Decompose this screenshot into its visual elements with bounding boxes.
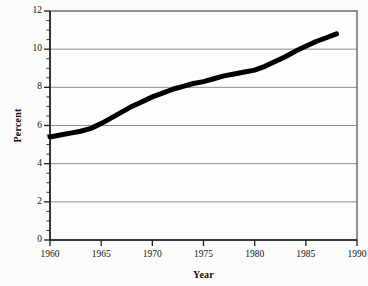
y-tick-label: 4 xyxy=(20,158,42,168)
y-tick-label: 0 xyxy=(20,234,42,244)
x-tick-label: 1975 xyxy=(184,249,224,259)
y-tick-label: 8 xyxy=(20,81,42,91)
x-tick-label: 1985 xyxy=(286,249,326,259)
y-axis-major-ticks xyxy=(44,11,50,240)
x-axis-label-wrap: Year xyxy=(50,264,357,282)
y-tick-label: 12 xyxy=(20,5,42,15)
x-tick-label: 1970 xyxy=(132,249,172,259)
x-tick-label: 1960 xyxy=(30,249,70,259)
y-tick-label: 2 xyxy=(20,196,42,206)
x-tick-label: 1965 xyxy=(81,249,121,259)
line-chart-plot xyxy=(0,0,368,286)
x-axis-ticks xyxy=(50,240,357,246)
x-tick-label: 1990 xyxy=(337,249,368,259)
chart-figure: Percent Year 024681012 19601965197019751… xyxy=(0,0,368,286)
x-axis-label: Year xyxy=(193,269,214,280)
y-tick-label: 10 xyxy=(20,43,42,53)
y-tick-label: 6 xyxy=(20,120,42,130)
x-tick-label: 1980 xyxy=(235,249,275,259)
